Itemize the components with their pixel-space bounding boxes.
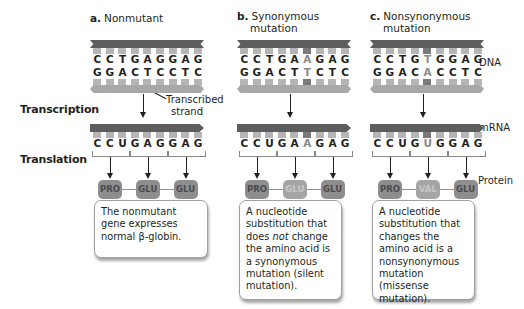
- peptide-bond: [160, 189, 174, 190]
- mrna-base: G: [276, 137, 289, 149]
- amino-acid: VAL: [416, 180, 440, 199]
- dna-base: G: [384, 66, 397, 78]
- dna-base: A: [288, 53, 301, 65]
- nucleotide-base: [436, 79, 444, 85]
- dna-base: C: [472, 66, 485, 78]
- dna-top-sequence: CCTGAGGAG: [91, 53, 204, 65]
- dna-base: T: [301, 66, 314, 78]
- mrna-strand: [370, 124, 484, 132]
- dna-base: C: [167, 66, 180, 78]
- dna-base: C: [447, 66, 460, 78]
- dna-base: G: [472, 53, 485, 65]
- nucleotide-base: [290, 79, 298, 85]
- nucleotide-base: [386, 79, 394, 85]
- dna-bottom-sequence: GGACTCCTC: [91, 66, 204, 78]
- dna-base: G: [371, 66, 384, 78]
- nucleotide-base: [449, 79, 457, 85]
- dna-base: G: [276, 53, 289, 65]
- dna-base: A: [301, 53, 314, 65]
- dna-base: C: [276, 66, 289, 78]
- panel-letter: c.: [370, 10, 380, 22]
- nucleotide-base: [93, 79, 101, 85]
- dna-base: A: [179, 53, 192, 65]
- dna-base: C: [154, 66, 167, 78]
- dna-coding-strand: [370, 40, 484, 48]
- dna-base: G: [104, 66, 117, 78]
- mrna-base: G: [472, 137, 485, 149]
- panel-title: a.Nonmutant: [90, 12, 163, 24]
- amino-acid: GLU: [174, 180, 198, 199]
- description-emphasis: not: [272, 231, 288, 242]
- nucleotide-base: [181, 79, 189, 85]
- mrna-base: U: [421, 137, 434, 149]
- transcribed-strand-label: Transcribed strand: [166, 94, 224, 118]
- nucleotide-base: [474, 79, 482, 85]
- dna-base: T: [141, 66, 154, 78]
- mrna-base: C: [238, 137, 251, 149]
- nucleotide-base: [118, 79, 126, 85]
- mrna-base: C: [91, 137, 104, 149]
- panel-title: c.Nonsynonymous mutation: [370, 10, 471, 34]
- mrna-base: C: [371, 137, 384, 149]
- peptide-bond: [122, 189, 136, 190]
- mrna-sequence: CCUGAGGAG: [91, 137, 204, 149]
- translation-arrow-icon: [186, 157, 187, 175]
- translation-arrow-icon: [390, 157, 391, 175]
- nucleotide-base: [328, 79, 336, 85]
- mrna-base: C: [251, 137, 264, 149]
- mrna-base: A: [141, 137, 154, 149]
- nucleotide-base: [461, 79, 469, 85]
- dna-base: C: [434, 66, 447, 78]
- dna-base: T: [288, 66, 301, 78]
- dna-base: G: [447, 53, 460, 65]
- amino-acid: GLU: [321, 180, 345, 199]
- amino-acid: PRO: [98, 180, 122, 199]
- panel-title-line1: Nonmutant: [104, 12, 163, 24]
- panel-title-line2: mutation: [370, 22, 471, 34]
- mrna-base: G: [167, 137, 180, 149]
- dna-base: C: [91, 53, 104, 65]
- amino-acid: GLU: [136, 180, 160, 199]
- mrna-base: A: [301, 137, 314, 149]
- description-text: A nucleotide substitution that changes t…: [379, 206, 460, 304]
- panel-title-line1: Nonsynonymous: [383, 10, 470, 22]
- nucleotide-base: [156, 79, 164, 85]
- dna-base: C: [251, 53, 264, 65]
- dna-base: A: [263, 66, 276, 78]
- dna-base: G: [154, 53, 167, 65]
- peptide-bond: [269, 189, 283, 190]
- translation-arrow-icon: [257, 157, 258, 175]
- transcription-arrow-icon: [143, 94, 144, 114]
- nucleotide-base: [316, 79, 324, 85]
- nucleotide-base: [194, 79, 202, 85]
- nucleotide-base: [143, 79, 151, 85]
- dna-base: C: [371, 53, 384, 65]
- mrna-base: G: [314, 137, 327, 149]
- dna-coding-strand: [237, 40, 351, 48]
- translation-arrow-icon: [295, 157, 296, 175]
- nucleotide-base: [411, 79, 419, 85]
- mrna-base: G: [447, 137, 460, 149]
- mrna-base: G: [339, 137, 352, 149]
- dna-bottom-sequence: GGACTTCTC: [238, 66, 351, 78]
- mrna-base: U: [396, 137, 409, 149]
- dna-coding-strand: [90, 40, 204, 48]
- dna-base: G: [314, 53, 327, 65]
- mrna-sequence: CCUGAAGAG: [238, 137, 351, 149]
- peptide-bond: [307, 189, 321, 190]
- panel-title-line2: mutation: [237, 22, 319, 34]
- amino-acid: PRO: [245, 180, 269, 199]
- nucleotide-base: [278, 79, 286, 85]
- dna-base: C: [104, 53, 117, 65]
- dna-base: G: [409, 53, 422, 65]
- mrna-base: U: [116, 137, 129, 149]
- dna-base: G: [238, 66, 251, 78]
- dna-base: G: [251, 66, 264, 78]
- description-box: A nucleotide substitution that does not …: [239, 200, 342, 300]
- dna-bottom-sequence: GGACACCTC: [371, 66, 484, 78]
- dna-base: G: [91, 66, 104, 78]
- dna-base: A: [421, 66, 434, 78]
- nucleotide-base: [373, 79, 381, 85]
- dna-base: G: [192, 53, 205, 65]
- description-text: The nonmutant gene expresses normal β-gl…: [101, 206, 181, 242]
